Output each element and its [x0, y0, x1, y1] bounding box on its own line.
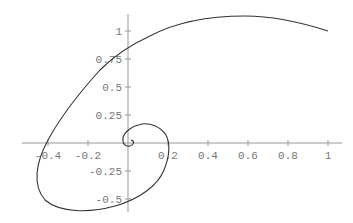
x-tick-label: 0.8: [278, 150, 298, 162]
y-tick-label: -0.25: [89, 166, 122, 178]
x-tick-label: 1: [325, 150, 332, 162]
y-tick-label: 0.25: [96, 110, 122, 122]
y-tick-label: -0.5: [96, 194, 122, 206]
parametric-plot: -0.4 -0.2 0.2 0.4 0.6 0.8 1 1 0.75 0.5 0…: [0, 0, 353, 223]
x-tick-label: -0.2: [75, 150, 101, 162]
y-tick-label: 0.75: [96, 54, 122, 66]
y-tick-label: 1: [115, 26, 122, 38]
x-tick-label: -0.4: [35, 150, 62, 162]
spiral-curve: [37, 16, 328, 211]
y-tick-label: 0.5: [102, 82, 122, 94]
x-tick-label: 0.4: [198, 150, 218, 162]
x-tick-label: 0.6: [238, 150, 258, 162]
